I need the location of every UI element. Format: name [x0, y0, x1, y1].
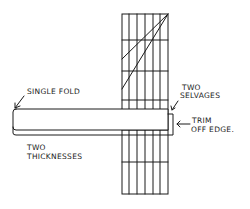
single-fold-arrow	[15, 96, 24, 108]
grid-vertical-lines	[129, 14, 160, 194]
trim-arrow	[177, 121, 190, 127]
two-thicknesses-label-line2: THICKNESSES	[27, 153, 82, 161]
two-selvages-label-line2: SELVAGES	[180, 92, 220, 100]
fabric-diagram	[0, 0, 250, 209]
folded-strip	[13, 109, 173, 135]
single-fold-label: SINGLE FOLD	[27, 88, 80, 96]
trim-label-line1: TRIM	[192, 117, 212, 125]
two-selvages-arrow	[171, 101, 178, 110]
two-thicknesses-label-line1: TWO	[27, 144, 46, 152]
trim-label-line2: OFF EDGE.	[191, 126, 234, 134]
